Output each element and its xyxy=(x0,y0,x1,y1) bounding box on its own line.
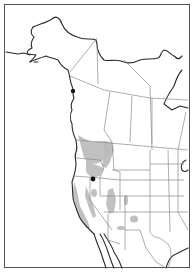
range-areas xyxy=(73,135,138,230)
range-map xyxy=(0,0,194,273)
record-dot-oregon xyxy=(91,177,96,182)
record-dot-alaska xyxy=(71,89,75,93)
map-frame xyxy=(0,0,194,273)
